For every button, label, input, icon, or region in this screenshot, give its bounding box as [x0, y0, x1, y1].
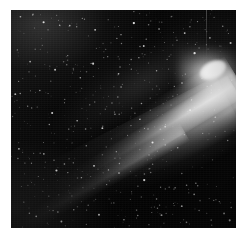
comet-photograph — [11, 10, 236, 228]
comet-nucleus — [208, 65, 220, 75]
plate-defect-streak — [206, 10, 208, 58]
screenshot-root — [0, 0, 249, 237]
